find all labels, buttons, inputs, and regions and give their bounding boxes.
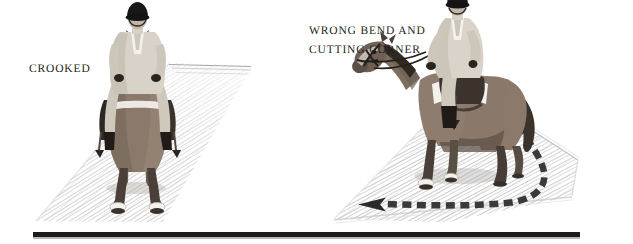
crooked-scene-svg [0,0,316,232]
caption-wrong-bend-line-2: CUTTING CORNER [309,41,426,60]
illustration-page: CROOKED WRONG BEND AND CUTTING CORNER [0,0,633,244]
caption-wrong-bend-line-1: WRONG BEND AND [309,22,426,41]
bottom-horizontal-rule-shadow [33,237,580,239]
caption-crooked: CROOKED [29,60,91,79]
panel-crooked [0,0,316,232]
caption-crooked-line-1: CROOKED [29,60,91,79]
caption-wrong-bend: WRONG BEND AND CUTTING CORNER [309,22,426,60]
